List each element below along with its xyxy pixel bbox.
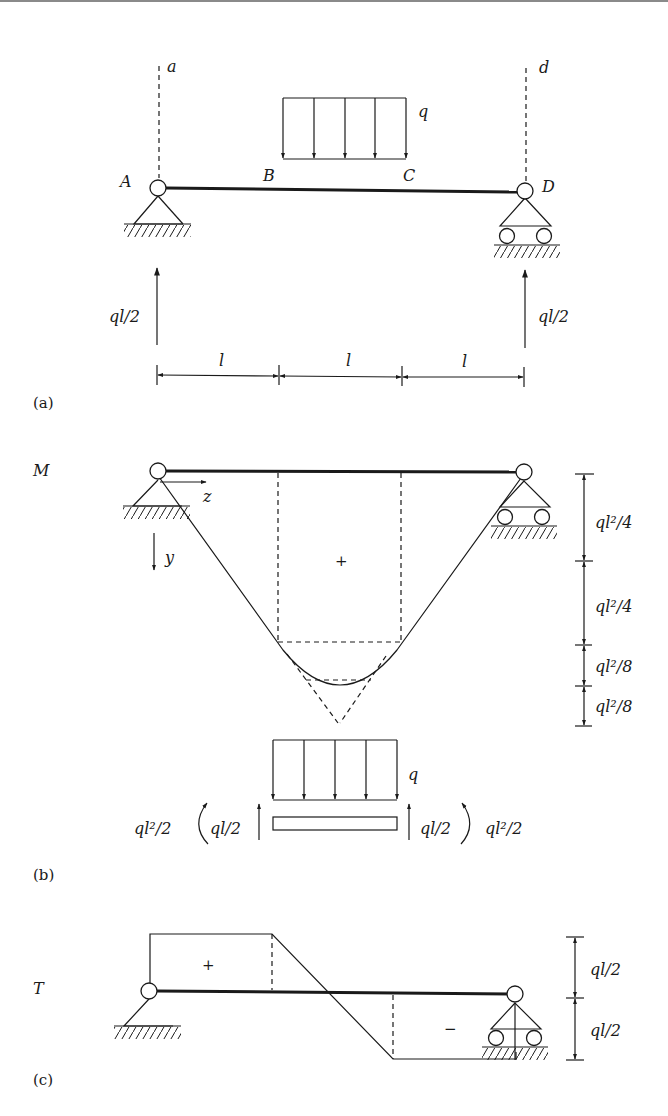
diagram-label-M: M: [32, 461, 50, 480]
moment-label-right: ql²/2: [485, 819, 522, 838]
span-label-2: l: [346, 351, 351, 370]
axis-y-label: y: [164, 548, 175, 567]
free-body-segment: [273, 817, 397, 830]
label-a: a: [167, 57, 177, 76]
sign-positive: +: [202, 956, 215, 974]
reaction-label-right: ql/2: [538, 307, 569, 326]
caption-a: (a): [33, 394, 54, 412]
dimension-label-top: ql/2: [590, 960, 621, 979]
distributed-load-q: [283, 98, 406, 159]
panel-a: a d q A B C D: [33, 57, 569, 412]
caption-c: (c): [33, 1071, 53, 1089]
shear-label-left: ql/2: [210, 819, 241, 838]
moment-label-left: ql²/2: [134, 819, 171, 838]
sign-negative: −: [444, 1020, 457, 1038]
beam: [166, 188, 518, 192]
point-label-C: C: [403, 166, 415, 185]
moment-curve: [159, 477, 521, 685]
span-dimensions: [157, 365, 524, 387]
shear-diagram: [150, 934, 516, 1059]
moment-dimensions: [575, 474, 594, 726]
dimension-label-1: ql²/4: [595, 513, 632, 532]
free-body-load: [273, 740, 397, 800]
reaction-label-left: ql/2: [109, 307, 140, 326]
axis-z-label: z: [202, 487, 212, 506]
free-body-load-label: q: [408, 765, 418, 784]
caption-b: (b): [33, 866, 54, 884]
shear-label-right: ql/2: [420, 819, 451, 838]
beam: [166, 471, 516, 472]
point-label-B: B: [262, 166, 275, 185]
beam: [157, 991, 510, 994]
panel-b: M + z y: [32, 461, 632, 884]
dimension-label-bottom: ql/2: [590, 1021, 621, 1040]
moment-arrow-right: [461, 803, 470, 844]
point-label-A: A: [118, 172, 132, 191]
label-d: d: [539, 58, 549, 77]
diagram-label-T: T: [33, 979, 45, 998]
hinge-A: [150, 180, 166, 196]
panel-c: T + −: [33, 934, 621, 1089]
dimension-label-2: ql²/4: [595, 597, 632, 616]
roller-support-right: [482, 986, 548, 1060]
span-label-1: l: [219, 351, 224, 370]
dimension-label-4: ql²/8: [595, 697, 632, 716]
shear-dimensions: [566, 937, 584, 1060]
roller-support-right: [491, 464, 557, 539]
load-label-q: q: [418, 102, 428, 121]
sign-plus: +: [335, 552, 348, 570]
beam-figure: a d q A B C D: [0, 0, 668, 1116]
moment-arrow-left: [199, 803, 208, 844]
hinge-D: [517, 183, 533, 199]
dimension-label-3: ql²/8: [595, 657, 632, 676]
span-label-3: l: [462, 352, 467, 371]
point-label-D: D: [541, 177, 555, 196]
